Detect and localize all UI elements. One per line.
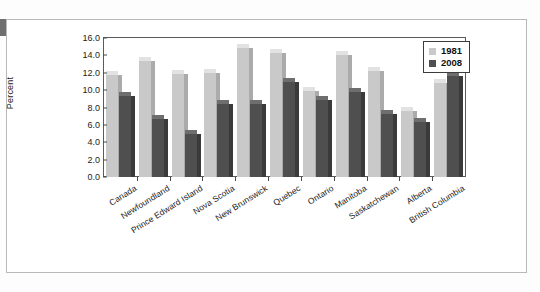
bar-top-face — [283, 78, 295, 82]
bar-top-face — [349, 88, 361, 92]
bar-side-face — [131, 96, 135, 177]
bar-face — [152, 119, 164, 177]
bar-top-face — [185, 130, 197, 134]
x-tick-mark — [399, 177, 400, 181]
bar-face — [316, 100, 328, 177]
bar-top-face — [204, 69, 216, 73]
bar-face — [139, 61, 151, 177]
bar-face — [447, 76, 459, 177]
x-tick-mark — [301, 177, 302, 181]
bar-top-face — [139, 57, 151, 61]
bar-top-face — [401, 107, 413, 111]
bar-side-face — [361, 92, 365, 177]
y-tick-mark — [103, 90, 107, 91]
bar-top-face — [414, 118, 426, 122]
bar-1981[interactable] — [106, 75, 118, 177]
bar-top-face — [303, 87, 315, 91]
bar-series-container — [104, 38, 465, 177]
bar-side-face — [393, 114, 397, 177]
bar-1981[interactable] — [336, 55, 348, 177]
bar-2008[interactable] — [250, 104, 262, 177]
bar-1981[interactable] — [139, 61, 151, 177]
legend-item-2008[interactable]: 2008 — [429, 57, 462, 69]
bar-2008[interactable] — [217, 104, 229, 177]
legend-item-1981[interactable]: 1981 — [429, 45, 462, 57]
bar-top-face — [237, 44, 249, 48]
bar-2008[interactable] — [349, 92, 361, 177]
bar-side-face — [229, 104, 233, 177]
bar-2008[interactable] — [152, 119, 164, 177]
bar-1981[interactable] — [237, 48, 249, 177]
bar-group — [303, 38, 328, 177]
bar-face — [106, 75, 118, 177]
y-tick-label: 4.0 — [87, 137, 100, 147]
bar-face — [204, 73, 216, 177]
y-tick-mark — [103, 55, 107, 56]
bar-side-face — [262, 104, 266, 177]
bar-group — [270, 38, 295, 177]
legend-label-1981: 1981 — [441, 45, 462, 57]
bar-face — [368, 71, 380, 177]
y-tick-mark — [103, 124, 107, 125]
bar-face — [217, 104, 229, 177]
y-tick-label: 6.0 — [87, 120, 100, 130]
bar-side-face — [459, 76, 463, 177]
y-tick-label: 10.0 — [82, 85, 100, 95]
x-tick-mark — [137, 177, 138, 181]
bar-face — [250, 104, 262, 177]
bar-face — [303, 91, 315, 177]
y-tick-label: 12.0 — [82, 68, 100, 78]
bar-face — [336, 55, 348, 177]
bar-group — [368, 38, 393, 177]
bar-2008[interactable] — [283, 82, 295, 177]
bar-1981[interactable] — [401, 111, 413, 177]
bar-side-face — [295, 82, 299, 177]
bar-side-face — [197, 134, 201, 177]
y-tick-label: 14.0 — [82, 50, 100, 60]
y-tick-mark — [103, 159, 107, 160]
y-tick-mark — [103, 177, 107, 178]
bar-1981[interactable] — [368, 71, 380, 177]
bar-face — [119, 96, 131, 177]
bar-group — [172, 38, 197, 177]
bar-top-face — [152, 115, 164, 119]
bar-2008[interactable] — [316, 100, 328, 177]
bar-2008[interactable] — [414, 122, 426, 177]
bar-face — [283, 82, 295, 177]
bar-1981[interactable] — [270, 53, 282, 177]
y-tick-label: 8.0 — [87, 103, 100, 113]
bar-2008[interactable] — [119, 96, 131, 177]
bar-1981[interactable] — [303, 91, 315, 177]
bar-top-face — [106, 71, 118, 75]
bar-group — [237, 38, 262, 177]
bar-face — [401, 111, 413, 177]
legend-swatch-2008-icon — [429, 60, 436, 67]
y-tick-label: 16.0 — [82, 33, 100, 43]
x-tick-mark — [170, 177, 171, 181]
bar-group — [106, 38, 131, 177]
bar-top-face — [368, 67, 380, 71]
bar-top-face — [336, 51, 348, 55]
y-axis-ticks: 0.02.04.06.08.010.012.014.016.0 — [58, 0, 100, 292]
bar-1981[interactable] — [204, 73, 216, 177]
bar-side-face — [328, 100, 332, 177]
bar-face — [185, 134, 197, 177]
bar-side-face — [164, 119, 168, 177]
bar-group — [204, 38, 229, 177]
bar-face — [381, 114, 393, 177]
bar-face — [349, 92, 361, 177]
bar-face — [414, 122, 426, 177]
bar-face — [434, 83, 446, 177]
x-tick-mark — [334, 177, 335, 181]
bar-2008[interactable] — [381, 114, 393, 177]
bar-2008[interactable] — [447, 76, 459, 177]
bar-1981[interactable] — [434, 83, 446, 177]
bar-face — [237, 48, 249, 177]
bar-1981[interactable] — [172, 74, 184, 177]
bar-2008[interactable] — [185, 134, 197, 177]
x-tick-mark — [202, 177, 203, 181]
bar-top-face — [217, 100, 229, 104]
bar-group — [139, 38, 164, 177]
chart-legend: 1981 2008 — [423, 41, 470, 73]
bar-top-face — [270, 49, 282, 53]
